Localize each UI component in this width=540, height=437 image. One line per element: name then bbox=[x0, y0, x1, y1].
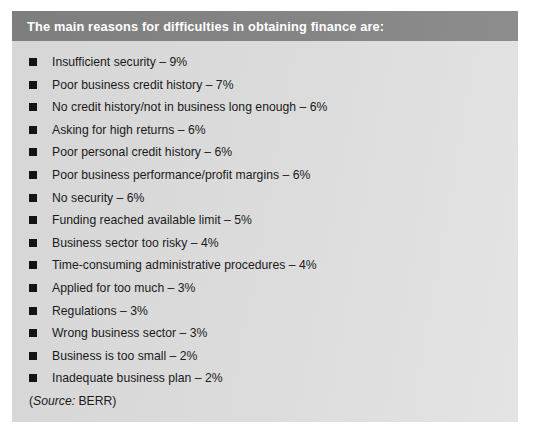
list-item: Applied for too much – 3% bbox=[29, 281, 503, 295]
list-item-label: Asking for high returns – 6% bbox=[52, 123, 206, 137]
panel-header-title: The main reasons for difficulties in obt… bbox=[27, 19, 384, 34]
list-item: Inadequate business plan – 2% bbox=[29, 371, 503, 385]
square-bullet-icon bbox=[29, 307, 37, 315]
list-item-label: No credit history/not in business long e… bbox=[52, 100, 327, 114]
square-bullet-icon bbox=[29, 148, 37, 156]
list-item-label: Poor personal credit history – 6% bbox=[52, 145, 232, 159]
reasons-panel: The main reasons for difficulties in obt… bbox=[12, 11, 518, 422]
list-item-label: No security – 6% bbox=[52, 191, 144, 205]
square-bullet-icon bbox=[29, 171, 37, 179]
list-item: Poor business credit history – 7% bbox=[29, 78, 503, 92]
list-item: Funding reached available limit – 5% bbox=[29, 213, 503, 227]
square-bullet-icon bbox=[29, 374, 37, 382]
list-item-label: Poor business performance/profit margins… bbox=[52, 168, 310, 182]
square-bullet-icon bbox=[29, 81, 37, 89]
list-item: Poor business performance/profit margins… bbox=[29, 168, 503, 182]
list-item: Business is too small – 2% bbox=[29, 349, 503, 363]
square-bullet-icon bbox=[29, 261, 37, 269]
source-label: Source: bbox=[33, 394, 75, 408]
square-bullet-icon bbox=[29, 239, 37, 247]
document-page: The main reasons for difficulties in obt… bbox=[0, 0, 540, 437]
panel-header: The main reasons for difficulties in obt… bbox=[12, 11, 518, 41]
reason-list: Insufficient security – 9% Poor business… bbox=[29, 55, 503, 385]
list-item: Regulations – 3% bbox=[29, 304, 503, 318]
list-item-label: Wrong business sector – 3% bbox=[52, 326, 207, 340]
square-bullet-icon bbox=[29, 58, 37, 66]
list-item-label: Funding reached available limit – 5% bbox=[52, 213, 252, 227]
list-item-label: Regulations – 3% bbox=[52, 304, 148, 318]
source-attribution: (Source: BERR) bbox=[29, 394, 503, 408]
source-close-paren: ) bbox=[112, 394, 116, 408]
list-item-label: Poor business credit history – 7% bbox=[52, 78, 234, 92]
list-item-label: Inadequate business plan – 2% bbox=[52, 371, 223, 385]
list-item: Business sector too risky – 4% bbox=[29, 236, 503, 250]
square-bullet-icon bbox=[29, 103, 37, 111]
list-item-label: Time-consuming administrative procedures… bbox=[52, 258, 317, 272]
square-bullet-icon bbox=[29, 126, 37, 134]
list-item: Insufficient security – 9% bbox=[29, 55, 503, 69]
list-item-label: Business sector too risky – 4% bbox=[52, 236, 219, 250]
list-item-label: Insufficient security – 9% bbox=[52, 55, 187, 69]
list-item-label: Business is too small – 2% bbox=[52, 349, 197, 363]
list-item: Poor personal credit history – 6% bbox=[29, 145, 503, 159]
list-item-label: Applied for too much – 3% bbox=[52, 281, 195, 295]
list-item: Asking for high returns – 6% bbox=[29, 123, 503, 137]
panel-body: Insufficient security – 9% Poor business… bbox=[12, 41, 518, 408]
source-name: BERR bbox=[75, 394, 112, 408]
list-item: No credit history/not in business long e… bbox=[29, 100, 503, 114]
square-bullet-icon bbox=[29, 284, 37, 292]
list-item: Wrong business sector – 3% bbox=[29, 326, 503, 340]
list-item: Time-consuming administrative procedures… bbox=[29, 258, 503, 272]
square-bullet-icon bbox=[29, 329, 37, 337]
square-bullet-icon bbox=[29, 194, 37, 202]
square-bullet-icon bbox=[29, 216, 37, 224]
square-bullet-icon bbox=[29, 352, 37, 360]
list-item: No security – 6% bbox=[29, 191, 503, 205]
